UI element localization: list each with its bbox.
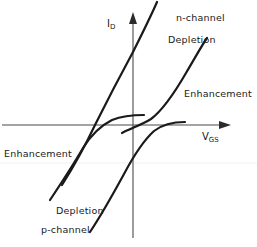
plot-canvas <box>0 0 257 247</box>
annotation-p-channel: p-channel <box>41 224 90 235</box>
x-axis-arrowhead <box>219 121 231 129</box>
annotation-enhancement-p-channel: Enhancement <box>4 148 72 159</box>
x-axis-label: VGS <box>202 131 219 142</box>
y-axis-label: ID <box>107 18 115 29</box>
x-axis-group <box>2 121 231 129</box>
y-axis-label-subscript: D <box>110 23 115 31</box>
mosfet-transfer-characteristics-figure: ID VGS n-channel Depletion Enhancement E… <box>0 0 257 247</box>
x-axis-label-subscript: GS <box>209 136 219 144</box>
annotation-depletion-p-channel: Depletion <box>56 205 104 216</box>
annotation-enhancement-n-channel: Enhancement <box>184 88 252 99</box>
curve-n-channel-enhancement <box>122 38 207 133</box>
annotation-depletion-n-channel: Depletion <box>168 34 216 45</box>
curve-p-channel-depletion <box>90 122 185 232</box>
x-axis-label-text: V <box>202 131 209 142</box>
y-axis-arrowhead <box>129 12 137 24</box>
annotation-n-channel: n-channel <box>176 12 225 23</box>
